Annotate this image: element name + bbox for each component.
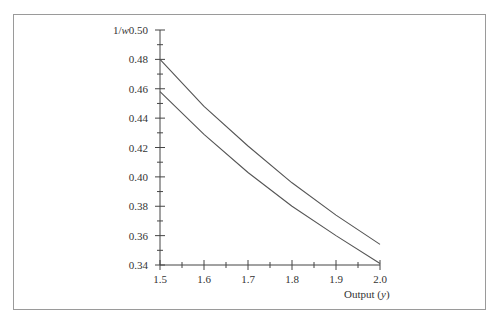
upper-curve [160, 59, 380, 244]
y-tick-label: 0.44 [129, 112, 149, 124]
x-tick-label: 2.0 [373, 273, 387, 285]
y-tick-label: 0.40 [129, 171, 149, 183]
x-tick-label: 1.5 [153, 273, 167, 285]
y-tick-label: 0.46 [129, 83, 149, 95]
data-lines [160, 59, 380, 263]
x-tick-label: 1.8 [285, 273, 299, 285]
y-tick-label: 0.42 [129, 142, 148, 154]
x-axis-label: Output (y) [344, 288, 390, 301]
y-tick-label: 0.36 [129, 230, 149, 242]
y-tick-label: 0.34 [129, 259, 149, 271]
lower-curve [160, 92, 380, 264]
y-axis-label: 1/w [113, 24, 130, 36]
y-tick-label: 0.50 [129, 24, 149, 36]
x-tick-label: 1.9 [329, 273, 343, 285]
x-tick-label: 1.6 [197, 273, 211, 285]
y-tick-label: 0.48 [129, 53, 149, 65]
y-tick-label: 0.38 [129, 200, 149, 212]
x-tick-label: 1.7 [241, 273, 255, 285]
line-chart: 0.500.480.460.440.420.400.380.360.341.51… [0, 0, 497, 321]
